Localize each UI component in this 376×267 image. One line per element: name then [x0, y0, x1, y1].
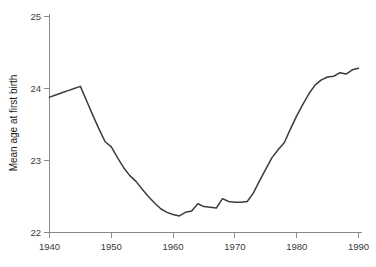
x-tick-label-1950: 1950 — [101, 241, 122, 252]
x-tick-label-1990: 1990 — [348, 241, 369, 252]
x-tick-label-1980: 1980 — [286, 241, 307, 252]
y-tick-label-23: 23 — [30, 155, 41, 166]
x-tick-label-1970: 1970 — [224, 241, 245, 252]
y-axis-title: Mean age at first birth — [8, 75, 19, 172]
x-tick-label-1960: 1960 — [163, 241, 184, 252]
x-tick-label-1940: 1940 — [39, 241, 60, 252]
y-tick-label-24: 24 — [30, 83, 41, 94]
chart-background — [0, 0, 376, 267]
chart-figure: 25 24 23 22 1940 1950 1960 1970 1980 199… — [0, 0, 376, 267]
y-tick-label-22: 22 — [30, 227, 41, 238]
y-tick-label-25: 25 — [30, 11, 41, 22]
line-chart: 25 24 23 22 1940 1950 1960 1970 1980 199… — [0, 0, 376, 267]
